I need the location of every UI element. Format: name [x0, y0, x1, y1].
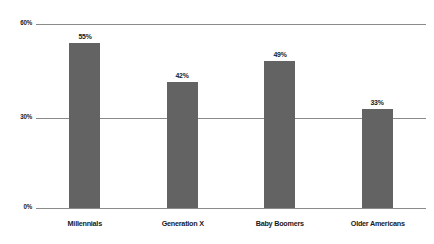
- bar-group-generation-x: 42%: [134, 10, 232, 208]
- bar-older-americans[interactable]: [362, 109, 393, 208]
- bar-group-millennials: 55%: [36, 10, 134, 208]
- bar-value-label: 55%: [59, 32, 111, 41]
- bar-value-label: 33%: [351, 98, 403, 107]
- bar-group-older-americans: 33%: [329, 10, 427, 208]
- bar-value-label: 42%: [156, 71, 208, 80]
- x-axis-label-generation-x: Generation X: [138, 219, 226, 228]
- bar-value-label: 49%: [254, 50, 306, 59]
- bar-group-baby-boomers: 49%: [231, 10, 329, 208]
- x-axis-labels: Millennials Generation X Baby Boomers Ol…: [36, 219, 426, 237]
- y-axis-tick-30: 30%: [4, 113, 32, 120]
- bar-series: 55% 42% 49% 33%: [36, 10, 426, 210]
- bar-chart: 60% 30% 0% 55% 42% 49% 33% Millennials G…: [0, 0, 434, 244]
- x-axis-label-baby-boomers: Baby Boomers: [236, 219, 324, 228]
- x-axis-label-millennials: Millennials: [41, 219, 129, 228]
- x-axis-label-older-americans: Older Americans: [333, 219, 421, 228]
- y-axis-tick-0: 0%: [4, 203, 32, 210]
- bar-generation-x[interactable]: [167, 82, 198, 208]
- y-axis-tick-60: 60%: [4, 19, 32, 26]
- bar-baby-boomers[interactable]: [264, 61, 295, 208]
- bar-millennials[interactable]: [69, 43, 100, 208]
